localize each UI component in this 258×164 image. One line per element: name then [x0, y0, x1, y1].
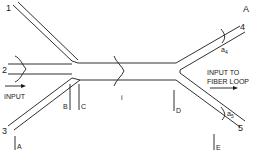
output-label-line1: INPUT TO — [207, 69, 240, 76]
junction-edge — [72, 78, 80, 80]
junction-edge — [72, 61, 78, 63]
plane-e-label: E — [216, 144, 221, 151]
center-mode-label: i — [121, 94, 123, 101]
port-5-label: 5 — [238, 123, 243, 133]
output-arrow-head — [233, 86, 238, 90]
port5-waveguide-upper-edge — [176, 80, 240, 127]
panel-label: A — [243, 4, 249, 14]
a4-label: a4 — [221, 46, 228, 55]
input-label: INPUT — [4, 93, 26, 100]
plane-d-label: D — [176, 107, 181, 114]
port4-waveguide-lower-edge — [180, 32, 245, 70]
input-arrow-head — [21, 84, 26, 88]
port-4-label: 4 — [240, 22, 245, 32]
y-branch-waveguide-diagram: 1 2 3 4 5 A INPUT INPUT TO FIBER LOOP A … — [0, 0, 258, 164]
plane-c-label: C — [81, 103, 86, 110]
port4-waveguide-upper-edge — [176, 26, 240, 63]
port1-waveguide-lower-edge — [18, 2, 78, 60]
plane-a-label: A — [17, 143, 22, 150]
input-mode-profile-icon — [15, 56, 26, 82]
plane-b-label: B — [63, 103, 68, 110]
port1-waveguide-upper-edge — [13, 5, 72, 61]
port3-waveguide-upper-edge — [8, 78, 72, 126]
port-2-label: 2 — [2, 65, 7, 75]
port-3-label: 3 — [2, 126, 7, 136]
output-label-line2: FIBER LOOP — [207, 78, 249, 85]
a5-label: a5 — [227, 110, 234, 119]
center-mode-profile-icon — [114, 56, 124, 86]
port-1-label: 1 — [6, 3, 11, 13]
